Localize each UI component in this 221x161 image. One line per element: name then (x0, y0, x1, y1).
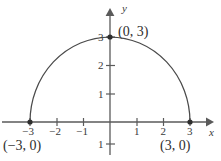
y-axis-label: y (122, 3, 127, 14)
x-tick-label-neg2: −2 (49, 126, 61, 137)
y-axis-arrowhead (106, 8, 115, 16)
x-tick-label-1: 1 (134, 126, 140, 137)
x-axis-label: x (209, 127, 214, 138)
y-tick-label-1: 1 (98, 89, 104, 100)
point-marker-left (27, 119, 32, 124)
annotation-top-point: (0, 3) (118, 25, 148, 39)
semicircle-graph-figure: y x −3 −2 −1 1 2 3 3 2 1 1 (0, 3) (−3, 0… (0, 0, 221, 161)
point-marker-right (187, 119, 192, 124)
annotation-right-point: (3, 0) (160, 139, 190, 153)
y-tick-label-3: 3 (98, 32, 104, 43)
point-marker-top (107, 34, 112, 39)
x-tick-label-neg3: −3 (22, 126, 34, 137)
x-tick-label-neg1: −1 (76, 126, 88, 137)
annotation-left-point: (−3, 0) (3, 139, 41, 153)
x-tick-label-2: 2 (161, 126, 167, 137)
x-tick-label-3: 3 (187, 126, 193, 137)
y-tick-label-neg1: 1 (98, 139, 104, 150)
y-tick-label-2: 2 (98, 60, 104, 71)
